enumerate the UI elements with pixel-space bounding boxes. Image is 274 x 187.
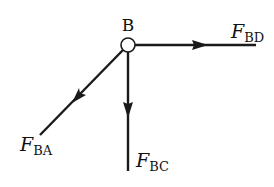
force-bd-symbol: F (230, 20, 245, 42)
joint-b-node (121, 38, 135, 52)
force-ba-label: FBA (19, 133, 53, 158)
force-ba-line (40, 50, 123, 135)
force-bc-symbol: F (135, 149, 150, 171)
joint-b-label: B (122, 15, 135, 35)
force-bc-label: FBC (135, 149, 169, 174)
force-bd-label: FBD (230, 20, 264, 45)
force-bd-subscript: BD (244, 30, 264, 45)
force-ba-symbol: F (19, 133, 34, 155)
force-ba-subscript: BA (33, 143, 53, 158)
force-bc-subscript: BC (149, 159, 169, 174)
free-body-diagram: B FBD FBA FBC (0, 0, 274, 187)
force-bc (123, 52, 133, 171)
force-bd-arrowhead-icon (192, 40, 208, 50)
force-bc-arrowhead-icon (123, 102, 133, 118)
force-ba (40, 50, 123, 135)
